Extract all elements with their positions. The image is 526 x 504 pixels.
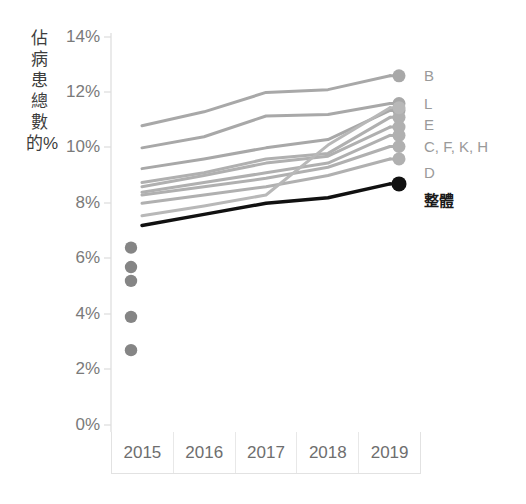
series-line-L — [142, 104, 390, 148]
scatter-dot-2015-4 — [125, 344, 137, 356]
series-end-marker-D — [393, 152, 406, 165]
series-end-markers — [392, 69, 407, 191]
series-label-cfkh: C, F, K, H — [424, 138, 488, 155]
series-label-e: E — [424, 116, 434, 133]
scatter-dot-2015-1 — [125, 261, 137, 273]
series-end-marker-rising — [393, 101, 406, 114]
x-year-2018: 2018 — [297, 432, 359, 473]
x-year-2017: 2017 — [236, 432, 298, 473]
x-year-2016: 2016 — [174, 432, 236, 473]
series-end-marker-B — [393, 69, 406, 82]
scatter-dot-2015-2 — [125, 275, 137, 287]
series-end-marker-整體 — [392, 176, 407, 191]
plot-area — [0, 0, 526, 504]
series-end-marker-H — [393, 140, 406, 153]
series-end-marker-K — [393, 129, 406, 142]
x-year-2019: 2019 — [359, 432, 420, 473]
series-label-d: D — [424, 164, 435, 181]
series-line-B — [142, 76, 390, 126]
axis-lines — [104, 33, 111, 432]
series-label-b: B — [424, 67, 434, 84]
scatter-dot-2015-0 — [125, 241, 137, 253]
x-axis-year-table: 2015 2016 2017 2018 2019 — [111, 432, 421, 474]
series-label-l: L — [424, 95, 432, 112]
x-year-2015: 2015 — [112, 432, 174, 473]
series-lines — [142, 76, 399, 226]
scatter-dots-2015 — [125, 241, 137, 356]
scatter-dot-2015-3 — [125, 311, 137, 323]
chart-root: 佔病患總數的% 14% 12% 10% 8% 6% 4% 2% 0% B L E… — [0, 0, 526, 504]
series-label-overall: 整體 — [424, 189, 454, 210]
